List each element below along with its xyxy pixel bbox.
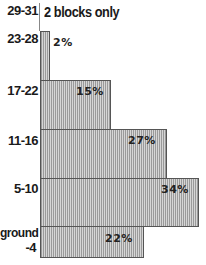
category-label: 17-22 [0, 83, 38, 98]
category-label: -4 [0, 240, 36, 255]
category-label: ground [0, 226, 38, 240]
category-label: 23-28 [0, 31, 38, 46]
value-label: 22% [105, 232, 133, 245]
axis-line [39, 3, 40, 31]
annotation-2-blocks-only: 2 blocks only [44, 3, 119, 20]
bar-23-28 [40, 31, 50, 81]
category-label: 11-16 [0, 133, 38, 148]
category-label: 5-10 [0, 181, 38, 196]
value-label: 34% [161, 183, 189, 196]
value-label: 27% [128, 134, 156, 147]
value-label: 2% [53, 36, 73, 49]
value-label: 15% [76, 85, 104, 98]
category-label: 29-31 [0, 3, 38, 18]
